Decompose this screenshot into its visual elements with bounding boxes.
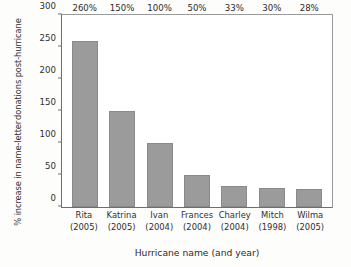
- x-axis-tick-year: (2005): [108, 222, 136, 232]
- x-axis-tick-name: Ivan: [150, 210, 168, 220]
- bar[interactable]: 33%: [221, 186, 247, 207]
- y-axis-title-line-1: % increase in name-letter: [13, 121, 23, 226]
- bar-value-label: 33%: [225, 4, 244, 13]
- bar[interactable]: 150%: [109, 111, 135, 207]
- bar-slot: 100%: [141, 15, 178, 207]
- x-axis-tick-name: Mitch: [261, 210, 284, 220]
- x-axis-tick-name: Wilma: [297, 210, 323, 220]
- x-axis-tick-year: (2004): [145, 222, 173, 232]
- y-axis-tick-label: 250: [40, 34, 62, 43]
- x-axis-title: Hurricane name (and year): [61, 247, 333, 258]
- bar-slot: 260%: [66, 15, 103, 207]
- bar-value-label: 30%: [262, 4, 281, 13]
- bar-value-label: 260%: [72, 4, 97, 13]
- bar-slot: 150%: [103, 15, 140, 207]
- bar-slot: 28%: [291, 15, 328, 207]
- y-axis-title-line-2: donations post-hurricane: [13, 18, 23, 120]
- x-axis-tick-year: (2005): [70, 222, 98, 232]
- x-axis-tick-label: Ivan(2004): [140, 210, 178, 242]
- bar-chart-figure: % increase in name-letter donations post…: [0, 0, 351, 267]
- bar-series: 260%150%100%50%33%30%28%: [62, 15, 332, 207]
- bar-slot: 50%: [178, 15, 215, 207]
- x-axis-tick-name: Charley: [219, 210, 251, 220]
- bar-slot: 33%: [216, 15, 253, 207]
- y-axis-tick-label: 300: [40, 2, 62, 11]
- bar[interactable]: 30%: [259, 188, 285, 207]
- bar[interactable]: 50%: [184, 175, 210, 207]
- x-axis-tick-label: Wilma(2005): [291, 210, 329, 242]
- bar-value-label: 100%: [147, 4, 172, 13]
- x-axis-tick-name: Frances: [181, 210, 213, 220]
- bar-value-label: 28%: [300, 4, 319, 13]
- x-axis-tick-label: Rita(2005): [65, 210, 103, 242]
- y-axis-tick-label: 150: [40, 98, 62, 107]
- bar-value-label: 50%: [187, 4, 206, 13]
- y-axis-title: % increase in name-letter donations post…: [3, 22, 33, 222]
- bar[interactable]: 28%: [296, 189, 322, 207]
- x-axis-tick-label: Frances(2004): [178, 210, 216, 242]
- x-axis-tick-name: Rita: [76, 210, 93, 220]
- bar-value-label: 150%: [110, 4, 135, 13]
- x-axis-tick-year: (2004): [183, 222, 211, 232]
- bar[interactable]: 260%: [72, 41, 98, 207]
- x-axis-tick-year: (2005): [296, 222, 324, 232]
- y-axis-tick-label: 100: [40, 130, 62, 139]
- plot-area: 050100150200250300 260%150%100%50%33%30%…: [61, 14, 333, 208]
- x-axis-ticks: Rita(2005)Katrina(2005)Ivan(2004)Frances…: [61, 210, 333, 242]
- x-axis-tick-name: Katrina: [107, 210, 137, 220]
- x-axis-tick-label: Charley(2004): [216, 210, 254, 242]
- x-axis-tick-label: Mitch(1998): [254, 210, 292, 242]
- x-axis-tick-year: (2004): [221, 222, 249, 232]
- x-axis-tick-label: Katrina(2005): [103, 210, 141, 242]
- y-axis-tick-label: 50: [45, 162, 62, 171]
- y-axis-tick-label: 0: [51, 194, 62, 203]
- y-axis-tick-label: 200: [40, 66, 62, 75]
- bar-slot: 30%: [253, 15, 290, 207]
- x-axis-tick-year: (1998): [259, 222, 287, 232]
- bar[interactable]: 100%: [147, 143, 173, 207]
